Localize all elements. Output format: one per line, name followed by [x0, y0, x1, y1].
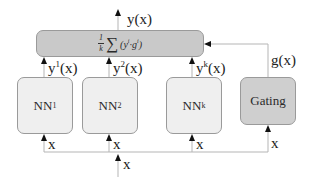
- output-base: y: [48, 60, 56, 76]
- expert2-input-label: x: [113, 137, 121, 152]
- expertk-output-label: yk(x): [196, 60, 226, 76]
- output-arg: (x): [208, 60, 226, 76]
- expert-subscript: 1: [52, 101, 56, 110]
- expert-name: NN: [34, 98, 53, 114]
- output-base: y: [113, 60, 121, 76]
- combiner-box: 1 k ∑ (yi·gi): [36, 30, 204, 57]
- expertk-input-arrowhead-icon: [189, 134, 195, 141]
- gating-input-label: x: [271, 136, 279, 151]
- gating-output-label: g(x): [271, 53, 296, 68]
- output-arg: (x): [125, 60, 143, 76]
- expertk-output-arrowhead-icon: [189, 57, 195, 64]
- fraction: 1 k: [98, 34, 104, 53]
- expert-name: NN: [99, 98, 118, 114]
- gating-box: Gating: [240, 77, 296, 125]
- main-input-arrowhead-icon: [115, 154, 121, 161]
- output-arrowhead-icon: [115, 9, 121, 16]
- fraction-denominator: k: [99, 45, 103, 53]
- expert-box-2: NN2: [82, 77, 138, 134]
- output-base: y: [196, 60, 204, 76]
- expert2-output-arrowhead-icon: [106, 57, 112, 64]
- gating-input-arrowhead-icon: [265, 125, 271, 132]
- gating-to-combiner-arrowhead-icon: [204, 41, 211, 47]
- main-input-label: x: [123, 157, 131, 172]
- sigma-symbol: ∑: [106, 34, 118, 54]
- output-label: y(x): [127, 12, 152, 27]
- expert1-output-label: y1(x): [48, 60, 78, 76]
- expert1-output-arrowhead-icon: [41, 57, 47, 64]
- mixture-of-experts-diagram: y(x) 1 k ∑ (yi·gi) y1(x) y2(x) yk(x) g(x…: [0, 0, 312, 177]
- expert1-input-label: x: [48, 137, 56, 152]
- expert1-input-arrowhead-icon: [41, 134, 47, 141]
- close-paren: ): [139, 39, 142, 50]
- gating-label: Gating: [250, 93, 285, 109]
- expert-subscript: k: [201, 101, 205, 110]
- expert-subscript: 2: [117, 101, 121, 110]
- expert-box-1: NN1: [17, 77, 73, 134]
- expertk-input-label: x: [196, 137, 204, 152]
- expert-name: NN: [183, 98, 202, 114]
- expert-box-k: NNk: [166, 77, 222, 134]
- combiner-term: (yi·gi): [120, 38, 142, 50]
- output-arg: (x): [60, 60, 78, 76]
- expert2-output-label: y2(x): [113, 60, 143, 76]
- expert2-input-arrowhead-icon: [106, 134, 112, 141]
- fraction-numerator: 1: [99, 34, 103, 42]
